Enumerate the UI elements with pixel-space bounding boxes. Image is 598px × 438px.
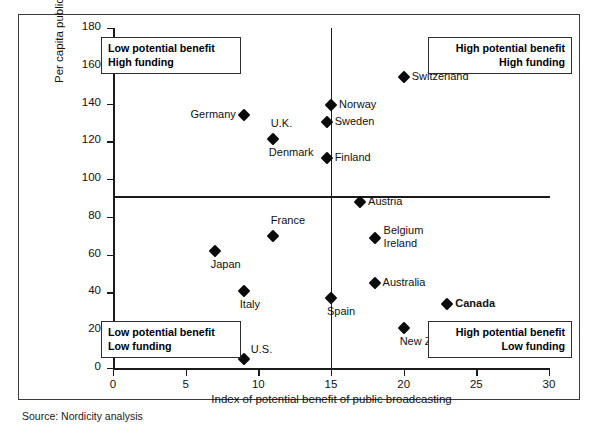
y-tick-label: 140 [67, 96, 101, 108]
x-tick-label: 10 [238, 378, 278, 390]
data-point-label: U.K. [271, 117, 292, 129]
quadrant-box-top-right: High potential benefit High funding [428, 37, 572, 74]
data-point-marker [237, 109, 250, 122]
source-note: Source: Nordicity analysis [22, 410, 143, 422]
x-tick [476, 369, 477, 376]
y-tick-label: 0 [67, 360, 101, 372]
data-point-marker [266, 229, 279, 242]
quadrant-box-bottom-right: High potential benefit Low funding [428, 321, 572, 358]
y-tick [107, 104, 114, 105]
data-point-marker [397, 71, 410, 84]
data-point-label: Sweden [335, 115, 375, 127]
data-point-marker [325, 292, 338, 305]
x-axis-title: Index of potential benefit of public bro… [113, 393, 550, 405]
y-tick-label: 80 [67, 209, 101, 221]
y-axis-line [113, 28, 115, 369]
quadrant-top-left-line1: Low potential benefit [108, 42, 234, 56]
chart-frame: 020406080100120140160180 051015202530 Ge… [18, 14, 580, 400]
y-tick [107, 217, 114, 218]
y-tick-label: 160 [67, 58, 101, 70]
x-tick-label: 25 [456, 378, 496, 390]
y-tick-label: 100 [67, 171, 101, 183]
y-tick [107, 255, 114, 256]
x-tick-label: 0 [93, 378, 133, 390]
x-tick [258, 369, 259, 376]
quadrant-bottom-right-line2: Low funding [435, 340, 565, 354]
data-point-label: Spain [327, 305, 355, 317]
x-tick-label: 5 [166, 378, 206, 390]
quadrant-box-bottom-left: Low potential benefit Low funding [101, 321, 241, 358]
data-point-label: Ireland [384, 237, 418, 249]
data-point-marker [441, 297, 454, 310]
data-point-label: Germany [191, 108, 236, 120]
data-point-marker [368, 277, 381, 290]
data-point-label: Norway [339, 98, 376, 110]
data-point-marker [237, 284, 250, 297]
x-tick-label: 20 [384, 378, 424, 390]
data-point-marker [325, 99, 338, 112]
quadrant-box-top-left: Low potential benefit High funding [101, 37, 241, 74]
data-point-marker [266, 133, 279, 146]
quadrant-bottom-right-line1: High potential benefit [435, 326, 565, 340]
x-tick [404, 369, 405, 376]
x-tick-label: 30 [529, 378, 569, 390]
x-tick-label: 15 [311, 378, 351, 390]
x-tick [331, 369, 332, 376]
x-tick [186, 369, 187, 376]
data-point-marker [208, 245, 221, 258]
y-tick [107, 179, 114, 180]
x-tick [549, 369, 550, 376]
quadrant-top-right-line1: High potential benefit [435, 42, 565, 56]
data-point-label: Belgium [384, 224, 424, 236]
x-tick [113, 369, 114, 376]
y-tick-label: 40 [67, 284, 101, 296]
y-tick-label: 20 [67, 322, 101, 334]
data-point-label: Italy [240, 298, 260, 310]
chart-page: 020406080100120140160180 051015202530 Ge… [0, 0, 598, 438]
y-tick [107, 292, 114, 293]
y-tick-label: 180 [67, 20, 101, 32]
data-point-marker [397, 322, 410, 335]
data-point-label: France [271, 214, 305, 226]
quadrant-bottom-left-line1: Low potential benefit [108, 326, 234, 340]
y-tick-label: 120 [67, 133, 101, 145]
data-point-label: Australia [383, 276, 426, 288]
data-point-label: Denmark [269, 146, 314, 158]
quadrant-bottom-left-line2: Low funding [108, 340, 234, 354]
data-point-marker [368, 231, 381, 244]
y-axis-title: Per capita public funding [53, 0, 65, 110]
y-tick-label: 60 [67, 247, 101, 259]
data-point-label: Austria [368, 195, 402, 207]
data-point-label: U.S. [251, 343, 272, 355]
data-point-label: Finland [335, 151, 371, 163]
data-point-label: Canada [455, 297, 495, 309]
y-tick [107, 141, 114, 142]
quadrant-top-right-line2: High funding [435, 56, 565, 70]
quadrant-top-left-line2: High funding [108, 56, 234, 70]
data-point-label: Japan [211, 258, 241, 270]
y-tick [107, 28, 114, 29]
